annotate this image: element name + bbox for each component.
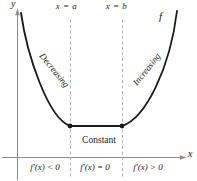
y-axis-label: y (11, 0, 15, 9)
plot-canvas (0, 0, 197, 181)
point-at-b (120, 124, 125, 129)
derivative-negative-label: f′(x) < 0 (21, 163, 69, 172)
derivative-zero-label: f′(x) = 0 (71, 163, 119, 172)
function-label: f (159, 11, 162, 22)
constant-region-label: Constant (71, 136, 127, 146)
curve-decreasing-branch (21, 13, 70, 126)
x-axis-arrowhead-icon (180, 155, 187, 160)
x-axis-label: x (188, 149, 192, 159)
y-axis-arrowhead-icon (15, 9, 20, 16)
vline-a-label: x = a (49, 2, 84, 11)
vline-b-label: x = b (99, 2, 134, 11)
derivative-positive-label: f′(x) > 0 (124, 163, 172, 172)
function-behavior-diagram: y x x = a x = b f Decreasing Increasing … (0, 0, 197, 181)
point-at-a (68, 124, 73, 129)
